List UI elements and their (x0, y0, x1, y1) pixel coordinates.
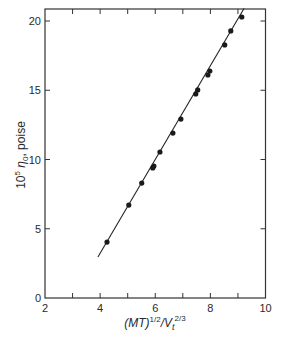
data-point (195, 87, 200, 92)
data-point (157, 149, 162, 154)
data-point (207, 68, 212, 73)
data-point (170, 130, 175, 135)
y-tick-label: 20 (29, 15, 41, 27)
x-tick-label: 6 (152, 302, 158, 314)
axis-ticks (45, 9, 266, 298)
y-tick-label: 10 (29, 154, 41, 166)
data-point (139, 180, 144, 185)
plot-border (45, 9, 266, 298)
data-point (151, 163, 156, 168)
tick-labels: 24681005101520 (29, 15, 272, 314)
chart: 24681005101520 (MT)1/2/Vt2/3 105 η0, poi… (0, 0, 283, 341)
data-point (104, 239, 109, 244)
data-point (178, 116, 183, 121)
data-point (228, 28, 233, 33)
data-point (222, 42, 227, 47)
data-point (126, 202, 131, 207)
plot-frame (45, 9, 266, 298)
y-axis-label: 105 η0, poise (13, 121, 30, 189)
x-tick-label: 2 (42, 302, 48, 314)
y-tick-label: 15 (29, 84, 41, 96)
y-tick-label: 0 (35, 292, 41, 304)
x-tick-label: 4 (97, 302, 103, 314)
y-tick-label: 5 (35, 223, 41, 235)
x-tick-label: 8 (207, 302, 213, 314)
x-tick-label: 10 (259, 302, 271, 314)
data-point (239, 14, 244, 19)
x-axis-label: (MT)1/2/Vt2/3 (124, 314, 186, 332)
